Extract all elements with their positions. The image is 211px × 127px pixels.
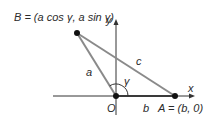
x-axis-label: x (187, 82, 194, 94)
side-b-label: b (143, 102, 149, 114)
law-of-cosines-diagram: B = (a cos γ, a sin γ) y x c a γ O b A =… (0, 0, 211, 127)
point-O-label: O (107, 102, 116, 114)
x-axis-arrow (189, 94, 195, 99)
y-axis-arrow (114, 19, 119, 25)
point-B-label: B = (a cos γ, a sin γ) (14, 11, 114, 23)
side-a (77, 33, 116, 96)
angle-gamma-label: γ (124, 75, 131, 87)
point-O (113, 93, 119, 99)
point-A (172, 93, 178, 99)
side-c-label: c (136, 55, 142, 67)
point-A-label: A = (b, 0) (157, 102, 203, 114)
side-a-label: a (86, 66, 92, 78)
point-B (74, 30, 80, 36)
